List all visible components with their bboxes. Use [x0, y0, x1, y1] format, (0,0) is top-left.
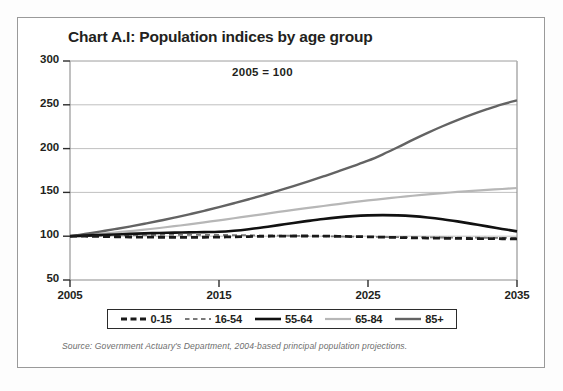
y-axis-tick-label: 50: [25, 272, 59, 284]
series-line-65-84: [70, 188, 517, 236]
legend-swatch-16-54: [185, 314, 211, 324]
chart-figure: Chart A.I: Population indices by age gro…: [0, 0, 563, 391]
legend-entry-85+[interactable]: 85+: [395, 313, 443, 325]
series-line-85+: [70, 100, 517, 236]
legend-entry-0-15[interactable]: 0-15: [121, 313, 172, 325]
legend-entry-65-84[interactable]: 65-84: [325, 313, 382, 325]
legend-swatch-85+: [395, 314, 421, 324]
legend-entry-55-64[interactable]: 55-64: [255, 313, 312, 325]
y-axis-tick-label: 150: [25, 184, 59, 196]
x-axis-tick-label: 2005: [47, 289, 93, 301]
legend-swatch-65-84: [325, 314, 351, 324]
gridlines: [70, 61, 517, 280]
legend-label: 65-84: [355, 313, 382, 325]
axis-ticks: [63, 61, 517, 287]
data-series: [70, 100, 517, 238]
x-axis-tick-label: 2025: [345, 289, 391, 301]
y-axis-tick-label: 100: [25, 228, 59, 240]
y-axis-tick-label: 200: [25, 141, 59, 153]
legend-label: 85+: [425, 313, 443, 325]
legend-entry-16-54[interactable]: 16-54: [185, 313, 242, 325]
legend-swatch-0-15: [121, 314, 147, 324]
plot-area: [0, 0, 563, 391]
axis-frame: [70, 61, 517, 280]
legend-swatch-55-64: [255, 314, 281, 324]
x-axis-tick-label: 2015: [196, 289, 242, 301]
legend-label: 55-64: [285, 313, 312, 325]
source-note: Source: Government Actuary's Department,…: [62, 341, 407, 351]
y-axis-tick-label: 250: [25, 97, 59, 109]
legend-label: 0-15: [151, 313, 172, 325]
chart-legend: 0-1516-5455-6465-8485+: [107, 309, 457, 329]
x-axis-tick-label: 2035: [494, 289, 540, 301]
legend-label: 16-54: [215, 313, 242, 325]
y-axis-tick-label: 300: [25, 53, 59, 65]
